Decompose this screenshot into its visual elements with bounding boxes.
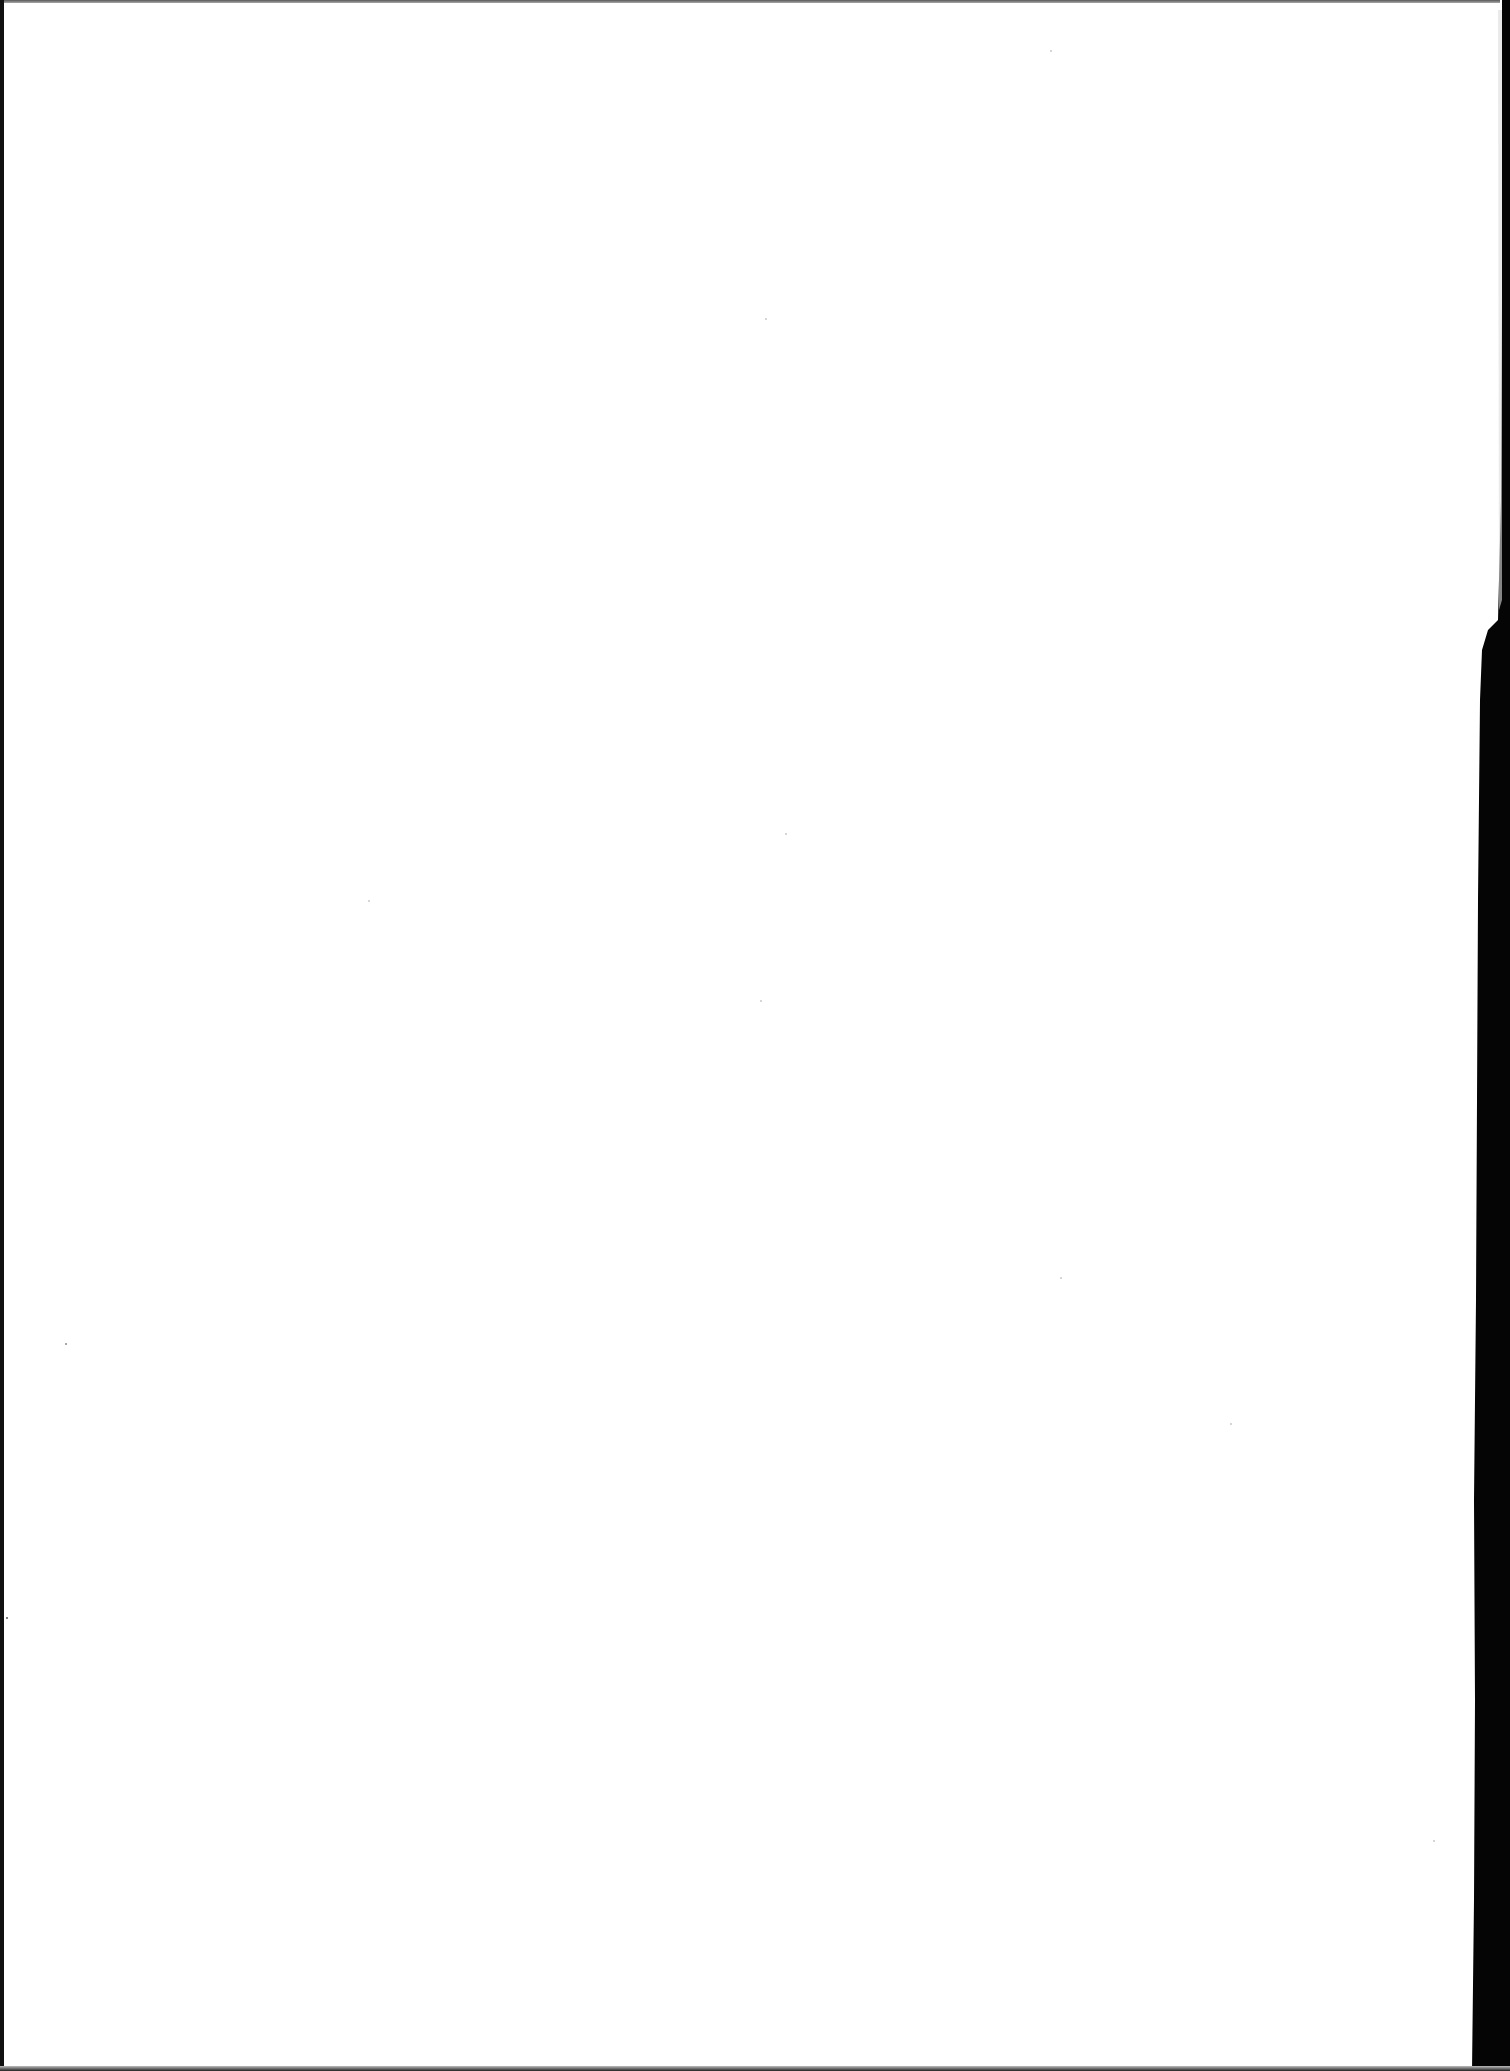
scan-edge-top — [0, 0, 1500, 3]
scan-speck — [760, 1000, 762, 1002]
scan-edge-bottom — [0, 2066, 1510, 2071]
scan-speck — [785, 833, 787, 835]
scan-speck — [1433, 1840, 1435, 1842]
scan-speck — [1050, 50, 1052, 52]
scan-speck — [368, 900, 370, 902]
scan-speck — [1230, 1423, 1232, 1425]
scan-edge-right — [0, 0, 1510, 2071]
blank-scanned-page — [0, 0, 1510, 2071]
scan-speck — [65, 1343, 67, 1345]
scan-edge-left — [0, 0, 4, 2071]
scan-speck — [6, 1617, 8, 1619]
scan-speck — [1060, 1277, 1062, 1279]
scan-speck — [765, 318, 767, 320]
